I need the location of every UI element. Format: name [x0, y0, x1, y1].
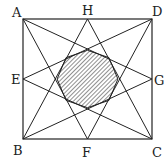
label-C: C [152, 145, 162, 160]
label-E: E [11, 72, 21, 87]
label-D: D [152, 4, 162, 19]
label-F: F [82, 145, 91, 160]
label-B: B [13, 143, 23, 158]
label-G: G [154, 73, 164, 88]
label-A: A [11, 5, 22, 20]
geometry-diagram: A H D E G B F C [0, 0, 167, 161]
label-H: H [82, 3, 93, 18]
